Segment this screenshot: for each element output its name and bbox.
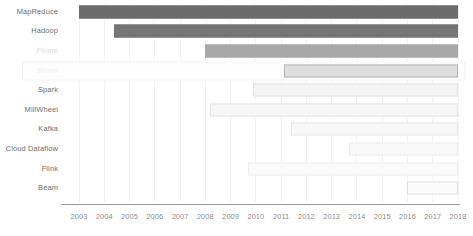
x-tick-label-2018: 2018 (450, 213, 467, 220)
chart-row[interactable]: Hadoop (0, 22, 473, 42)
chart-row[interactable]: Beam (0, 178, 473, 198)
chart-row[interactable]: MillWheel (0, 100, 473, 120)
chart-row[interactable]: Flume (0, 41, 473, 61)
row-label-hadoop: Hadoop (0, 28, 58, 35)
bar-kafka[interactable] (291, 123, 458, 136)
row-label-storm: Storm (0, 67, 58, 74)
x-tick-label-2009: 2009 (222, 213, 239, 220)
chart-row[interactable]: MapReduce (0, 2, 473, 22)
x-tick-label-2010: 2010 (247, 213, 264, 220)
bar-flink[interactable] (248, 162, 458, 175)
plot-area: MapReduceHadoopFlumeStormSparkMillWheelK… (0, 0, 473, 205)
row-label-flink: Flink (0, 165, 58, 172)
row-label-mapreduce: MapReduce (0, 8, 58, 15)
bar-hadoop[interactable] (114, 25, 458, 38)
x-tick-label-2012: 2012 (298, 213, 315, 220)
bar-beam[interactable] (407, 182, 458, 195)
row-label-beam: Beam (0, 184, 58, 191)
bar-storm[interactable] (284, 64, 458, 77)
bar-flume[interactable] (205, 44, 458, 57)
x-tick-label-2011: 2011 (273, 213, 289, 220)
row-label-kafka: Kafka (0, 126, 58, 133)
chart-row[interactable]: Flink (0, 159, 473, 179)
x-tick-label-2013: 2013 (323, 213, 340, 220)
gantt-timeline-chart: MapReduceHadoopFlumeStormSparkMillWheelK… (0, 0, 473, 236)
x-tick-label-2005: 2005 (121, 213, 138, 220)
x-tick-label-2006: 2006 (146, 213, 163, 220)
bar-millwheel[interactable] (210, 103, 458, 116)
bar-cloud-dataflow[interactable] (349, 142, 458, 155)
x-tick-label-2017: 2017 (424, 213, 441, 220)
row-label-flume: Flume (0, 47, 58, 54)
x-tick-label-2015: 2015 (374, 213, 391, 220)
x-tick-label-2008: 2008 (197, 213, 214, 220)
x-tick-label-2007: 2007 (172, 213, 189, 220)
x-tick-label-2014: 2014 (349, 213, 366, 220)
x-tick-label-2004: 2004 (96, 213, 113, 220)
bar-spark[interactable] (253, 84, 458, 97)
chart-row[interactable]: Storm (0, 61, 473, 81)
x-tick-label-2016: 2016 (399, 213, 416, 220)
chart-row[interactable]: Spark (0, 80, 473, 100)
x-axis-line (61, 204, 460, 205)
x-tick-label-2003: 2003 (71, 213, 88, 220)
chart-row[interactable]: Cloud Dataflow (0, 139, 473, 159)
row-label-spark: Spark (0, 86, 58, 93)
chart-row[interactable]: Kafka (0, 120, 473, 140)
row-label-millwheel: MillWheel (0, 106, 58, 113)
row-label-cloud-dataflow: Cloud Dataflow (0, 145, 58, 152)
bar-mapreduce[interactable] (79, 5, 458, 18)
